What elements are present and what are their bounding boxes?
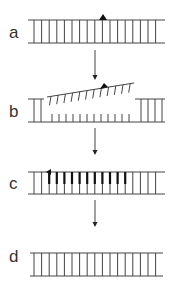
arrow-down-icon (93, 200, 98, 227)
ladder-d (30, 253, 163, 276)
ladder-c (28, 172, 165, 194)
lesion-marker-icon (99, 14, 107, 20)
arrow-down-icon (93, 128, 98, 155)
panel-label-b: b (9, 102, 18, 121)
panel-label-a: a (9, 23, 19, 42)
ladder-a (28, 20, 165, 43)
arrow-down-icon (93, 50, 98, 80)
ladder-b (28, 83, 165, 122)
panel-label-d: d (9, 247, 18, 266)
panel-label-c: c (9, 174, 18, 193)
repair-diagram: a b c d (0, 0, 170, 290)
